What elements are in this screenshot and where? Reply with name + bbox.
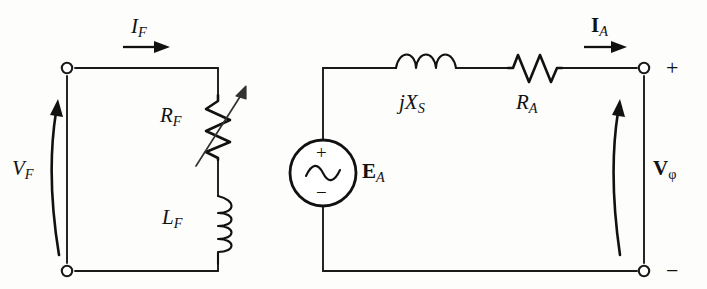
- armature-current-arrow: [584, 41, 627, 53]
- v-phi-arrow-head-icon: [612, 99, 625, 117]
- field-current-arrow: [123, 41, 170, 53]
- field-voltage-arrow: [50, 99, 63, 255]
- v-phi-arrow-shaft-icon: [614, 112, 620, 255]
- armature-circuit-group: [290, 41, 649, 276]
- circuit-schematic-canvas: [0, 0, 707, 289]
- armature-voltage-arrow: [612, 99, 625, 255]
- variable-resistor-symbol[interactable]: [196, 86, 246, 166]
- ac-source-minus-sign: −: [316, 182, 327, 204]
- armature-voltage-label: Vφ: [653, 158, 676, 181]
- field-circuit-group: [50, 41, 246, 276]
- v-f-arrow-shaft-icon: [52, 112, 59, 255]
- armature-current-label: IA: [591, 15, 608, 38]
- i-f-arrow-head-icon: [154, 41, 170, 53]
- field-terminal-bottom-icon[interactable]: [62, 266, 72, 276]
- field-inductor-symbol[interactable]: [218, 196, 232, 264]
- variable-resistor-label: RF: [160, 105, 182, 128]
- armature-terminal-top-icon[interactable]: [639, 63, 649, 73]
- field-inductor-label: LF: [162, 207, 182, 230]
- armature-terminal-plus-sign: +: [666, 55, 678, 81]
- variable-arrow-shaft-icon: [196, 92, 243, 166]
- field-current-label: IF: [131, 16, 147, 39]
- reactance-label: jXS: [399, 92, 425, 115]
- armature-resistor-symbol[interactable]: [508, 55, 562, 82]
- armature-resistor-label: RA: [516, 92, 538, 115]
- ac-source-plus-sign: +: [316, 142, 327, 164]
- armature-resistor-zigzag-icon: [508, 55, 562, 82]
- armature-terminal-bottom-icon[interactable]: [639, 266, 649, 276]
- armature-terminal-minus-sign: −: [666, 258, 678, 284]
- reactance-inductor-symbol[interactable]: [396, 55, 456, 69]
- circuit-diagram: IF VF RF LF jXS RA EA IA Vφ + − + −: [0, 0, 707, 289]
- inductor-coil-icon: [218, 196, 232, 264]
- ac-source-label: EA: [362, 161, 385, 184]
- reactance-coil-icon: [396, 55, 456, 69]
- resistor-zigzag-icon: [206, 95, 230, 160]
- field-terminal-top-icon[interactable]: [62, 63, 72, 73]
- field-voltage-label: VF: [12, 158, 34, 181]
- i-a-arrow-head-icon: [611, 41, 627, 53]
- variable-arrow-head-icon: [236, 86, 246, 99]
- v-f-arrow-head-icon: [50, 99, 63, 117]
